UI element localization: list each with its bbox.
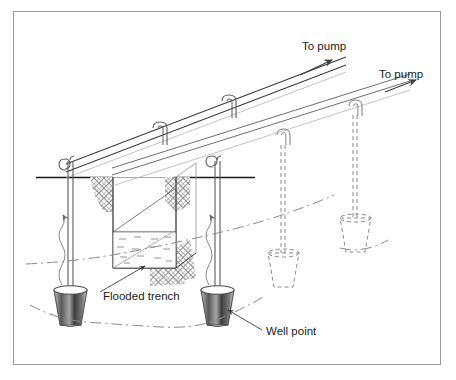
- trench-interior-slope: [113, 188, 176, 232]
- well-point-strainer-2: [201, 286, 234, 327]
- wellpoint-dewatering-diagram: To pump To pump Flooded trench Well poin…: [0, 0, 456, 380]
- label-flooded-trench: Flooded trench: [103, 290, 180, 302]
- drawdown-curve-right-tail: [340, 240, 388, 250]
- label-to-pump-left: To pump: [302, 40, 346, 52]
- wellpoint-assembly-4-hidden: [340, 115, 371, 252]
- trench-wall-right-receding: [176, 163, 196, 177]
- hook-connector-1: [153, 122, 167, 145]
- wellpoint-assembly-2: [201, 156, 234, 327]
- pipe-perspective-rails: [66, 72, 410, 186]
- rear-header-pipe-top-rail: [112, 74, 410, 168]
- rear-hook-connector-2: [349, 100, 362, 116]
- leader-line-well-point: [228, 310, 262, 330]
- ground-surface-plane: [36, 178, 255, 179]
- label-to-pump-right: To pump: [379, 68, 423, 80]
- wellpoint-assembly-3-hidden: [268, 145, 299, 287]
- rear-header-pipe: [112, 74, 416, 175]
- rear-header-pipe-bottom-rail: [112, 81, 410, 175]
- water-flow-arrow-2: [206, 215, 212, 285]
- rear-pipe-hook-connectors: [277, 100, 362, 145]
- rear-hook-connector-1: [277, 129, 290, 145]
- figure-root: To pump To pump Flooded trench Well poin…: [0, 0, 456, 380]
- label-well-point: Well point: [266, 325, 317, 337]
- well-point-strainer-3-hidden: [268, 249, 299, 287]
- soil-hatch-left-bank: [90, 177, 113, 212]
- wellpoint-assembly-1: [54, 156, 87, 327]
- swing-connector-1: [59, 156, 74, 170]
- well-point-strainer-4-hidden: [340, 214, 371, 252]
- leader-line-flooded-trench: [100, 266, 145, 292]
- water-flow-arrow-1: [59, 215, 65, 285]
- swing-connector-2: [206, 156, 221, 167]
- rear-pipe-pump-arrow: [385, 80, 416, 92]
- soil-hatch-right-bank: [165, 177, 190, 212]
- front-pipe-hook-connectors: [153, 95, 236, 145]
